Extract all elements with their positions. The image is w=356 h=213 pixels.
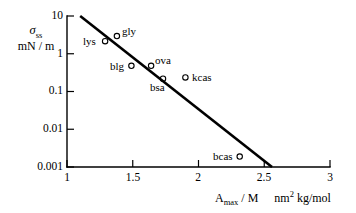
x-tick-label-1: 1	[51, 172, 83, 184]
x-tick-label-2: 2	[182, 172, 214, 184]
x-axis-ticks	[67, 160, 330, 167]
data-marker-kcas	[183, 75, 188, 80]
y-tick-label-1: 1	[18, 48, 63, 60]
x-tick-label-1.5: 1.5	[117, 172, 149, 184]
data-marker-lys	[102, 39, 107, 44]
scatter-plot-figure: σss mN / m 10 1 0.1 0.01 0.001 1 1.5 2 2…	[0, 0, 356, 213]
data-marker-blg	[129, 63, 134, 68]
point-label-bsa: bsa	[150, 82, 165, 93]
y-axis-ticks	[67, 16, 74, 167]
y-tick-label-0.1: 0.1	[18, 85, 63, 97]
point-label-bcas: bcas	[213, 151, 233, 162]
point-label-lys: lys	[83, 36, 96, 47]
data-marker-ova	[148, 63, 153, 68]
x-axis-title: Amax / M nm2 kg/mol	[215, 190, 331, 208]
data-marker-gly	[114, 33, 119, 38]
point-label-blg: blg	[110, 61, 124, 72]
x-axis-units: nm2 kg/mol	[274, 191, 331, 205]
x-tick-label-2.5: 2.5	[248, 172, 280, 184]
y-tick-label-10: 10	[18, 10, 63, 22]
point-label-ova: ova	[155, 55, 171, 66]
y-tick-label-0.001: 0.001	[18, 161, 63, 173]
y-axis-symbol: σss	[10, 23, 62, 40]
x-axis-divider: / M	[241, 191, 258, 205]
point-label-kcas: kcas	[192, 72, 212, 83]
data-marker-bcas	[237, 154, 242, 159]
trend-line	[80, 16, 272, 167]
x-tick-label-3: 3	[314, 172, 346, 184]
y-tick-label-0.01: 0.01	[18, 123, 63, 135]
point-label-gly: gly	[122, 26, 136, 37]
x-axis-symbol: Amax	[215, 191, 238, 205]
